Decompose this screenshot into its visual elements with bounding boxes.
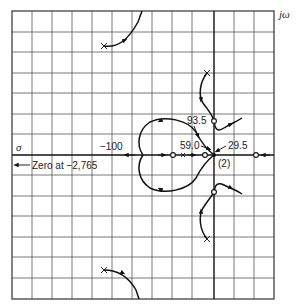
zero-note: Zero at −2,765	[32, 160, 98, 171]
gain-label-93-5: 93.5	[187, 115, 207, 126]
double-pole-origin-icon	[212, 153, 216, 157]
locus-branch-upper-right	[214, 118, 242, 130]
locus-branch-lower-left	[104, 270, 139, 299]
zero-real-left-icon	[171, 153, 176, 158]
arrow-icon-lower-left	[121, 272, 123, 273]
zero-real-near-origin-icon	[203, 153, 208, 158]
jomega-label: jω	[277, 8, 290, 20]
arrow-icon-loop-upper	[160, 120, 162, 121]
arrow-icon-loop-lower	[160, 189, 162, 190]
locus-loop-lower	[139, 155, 214, 191]
locus-branch-lower-pole	[200, 192, 214, 239]
locus-branch-lower-right	[214, 184, 242, 194]
gain-label-29-5: 29.5	[228, 140, 248, 151]
root-locus-diagram: σ jω −100 Zero at −2,765 93.5 59.0 29.5 …	[0, 0, 300, 308]
zero-real-right-icon	[254, 153, 259, 158]
gain-label-59-0: 59.0	[180, 140, 200, 151]
sigma-label: σ	[16, 141, 22, 153]
zero-complex-lower-icon	[212, 190, 217, 195]
tick-label-minus-100: −100	[100, 141, 123, 152]
pointer-icon-29-5	[217, 146, 226, 151]
zero-complex-upper-icon	[212, 119, 217, 124]
locus-branch-upper-left	[104, 11, 142, 46]
double-pole-label: (2)	[218, 158, 230, 169]
